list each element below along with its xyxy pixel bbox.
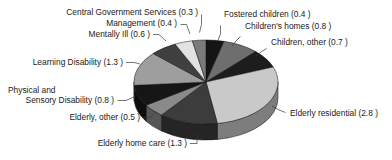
leader-line-physical-sensory-disability (118, 97, 135, 101)
label-physical-sensory-disability-line1: Physical and (8, 85, 56, 95)
pie-chart-figure: Central Government Services (0.3 ) Manag… (0, 0, 392, 160)
pie-3d-body (134, 40, 278, 140)
label-childrens-homes: Children's homes (0.8 ) (245, 21, 332, 31)
label-central-government-services: Central Government Services (0.3 ) (66, 7, 198, 17)
leader-line-central-government-services (200, 15, 202, 33)
label-physical-sensory-disability-line2: Sensory Disability (0.8 ) (26, 95, 115, 105)
label-management: Management (0.4 ) (106, 18, 177, 28)
leader-line-fostered-children (218, 26, 221, 41)
label-elderly-other: Elderly, other (0.5 ) (69, 112, 140, 122)
label-elderly-home-care: Elderly home care (1.3 ) (98, 138, 188, 148)
leader-line-learning-disability (126, 63, 140, 65)
label-mentally-ill: Mentally Ill (0.6 ) (89, 29, 151, 39)
label-learning-disability: Learning Disability (1.3 ) (33, 57, 124, 67)
label-elderly-residential: Elderly residential (2.8 ) (290, 108, 378, 118)
label-children-other: Children, other (0.7 ) (271, 37, 348, 47)
pie-chart-svg: Central Government Services (0.3 ) Manag… (0, 0, 392, 160)
leader-line-mentally-ill (153, 35, 166, 42)
label-fostered-children: Fostered children (0.4 ) (224, 9, 311, 19)
leader-line-management (181, 25, 191, 35)
